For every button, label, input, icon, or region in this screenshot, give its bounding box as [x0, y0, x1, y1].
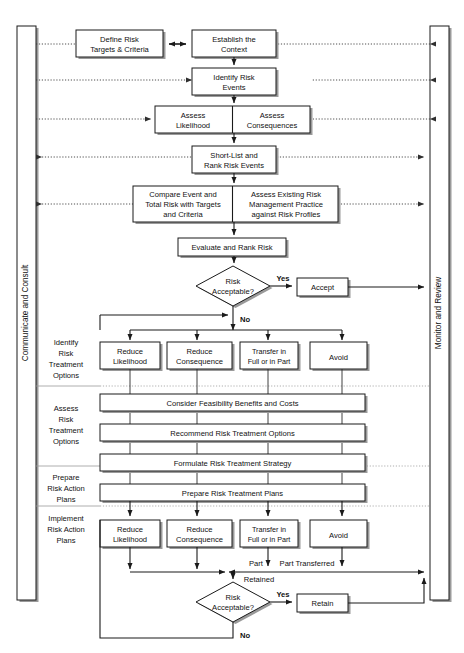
identify-options-line1: Identify [54, 338, 79, 347]
edge-decision2-yes: Yes [270, 590, 292, 602]
left-sidebar-communicate-and-consult: Communicate and Consult [17, 26, 39, 602]
stage-label-implement-risk-action-plans: Implement Risk Action Plans [47, 514, 85, 545]
node-recommend-options[interactable]: Recommend Risk Treatment Options [100, 424, 368, 443]
label-no-2: No [240, 631, 250, 640]
node-evaluate-rank-risk[interactable]: Evaluate and Rank Risk [178, 238, 289, 258]
transfer-2-line1: Transfer in [252, 525, 286, 534]
reduce-likelihood-1-line2: Likelihood [113, 357, 147, 366]
node-consider-feasibility[interactable]: Consider Feasibility Benefits and Costs [100, 394, 368, 413]
identify-options-line3: Treatment [49, 360, 84, 369]
identify-options-line2: Risk [59, 349, 74, 358]
prepare-plans-line2: Risk Action [47, 484, 85, 493]
transfer-2-line2: Full or in Part [248, 535, 291, 544]
avoid-2-label: Avoid [329, 531, 348, 540]
risk-acceptable-2-line1: Risk [226, 593, 241, 602]
edge-decision1-no: No [233, 306, 250, 330]
reduce-likelihood-2-line2: Likelihood [113, 535, 147, 544]
reduce-consequence-1-line2: Consequence [176, 357, 223, 366]
node-assess-likelihood-consequences[interactable]: Assess Likelihood Assess Consequences [155, 106, 313, 135]
treatment-options-fanout-1 [130, 330, 342, 340]
identify-risk-events-line2: Events [222, 83, 245, 92]
node-avoid-1[interactable]: Avoid [310, 342, 370, 371]
node-risk-acceptable-2[interactable]: Risk Acceptable? [196, 582, 273, 624]
transfer-1-line1: Transfer in [252, 347, 286, 356]
define-risk-targets-line1: Define Risk [100, 35, 139, 44]
edge-bottom-feedback-to-decision1 [100, 315, 228, 330]
treatment-options-fanout-2 [130, 501, 342, 516]
node-transfer-2[interactable]: Transfer in Full or in Part [240, 520, 301, 549]
identify-options-line4: Options [53, 371, 79, 380]
node-prepare-plans[interactable]: Prepare Risk Treatment Plans [100, 484, 368, 503]
retain-label: Retain [312, 599, 334, 608]
establish-context-line2: Context [221, 45, 248, 54]
node-reduce-likelihood-2[interactable]: Reduce Likelihood [100, 520, 163, 549]
merge-bus [130, 547, 424, 579]
node-reduce-consequence-1[interactable]: Reduce Consequence [167, 342, 235, 371]
assess-options-line1: Assess [54, 404, 79, 413]
assess-existing-line2: Management Practice [249, 200, 323, 209]
risk-acceptable-1-line1: Risk [226, 277, 241, 286]
consider-feasibility-label: Consider Feasibility Benefits and Costs [166, 399, 298, 408]
node-retain[interactable]: Retain [297, 594, 351, 614]
label-yes-2: Yes [276, 590, 289, 599]
implement-plans-line3: Plans [57, 536, 76, 545]
node-avoid-2[interactable]: Avoid [310, 520, 370, 549]
assess-options-line2: Risk [59, 415, 74, 424]
reduce-consequence-1-line1: Reduce [186, 347, 212, 356]
node-reduce-consequence-2[interactable]: Reduce Consequence [167, 520, 235, 549]
assess-consequences-line2: Consequences [247, 121, 298, 130]
stage-label-assess-risk-treatment-options: Assess Risk Treatment Options [49, 404, 84, 446]
assess-existing-line1: Assess Existing Risk [251, 190, 321, 199]
left-sidebar-label: Communicate and Consult [21, 264, 30, 361]
node-formulate-strategy[interactable]: Formulate Risk Treatment Strategy [100, 454, 368, 473]
define-risk-targets-line2: Targets & Criteria [90, 45, 149, 54]
implement-plans-line2: Risk Action [47, 525, 85, 534]
implement-plans-line1: Implement [48, 514, 84, 523]
prepare-plans-line1: Prepare [52, 473, 79, 482]
assess-likelihood-line1: Assess [181, 111, 206, 120]
short-list-line2: Rank Risk Events [204, 161, 264, 170]
reduce-consequence-2-line1: Reduce [186, 525, 212, 534]
node-transfer-1[interactable]: Transfer in Full or in Part [240, 342, 301, 371]
assess-likelihood-line2: Likelihood [176, 121, 210, 130]
assess-options-line3: Treatment [49, 426, 84, 435]
prepare-plans-line3: Plans [57, 495, 76, 504]
node-identify-risk-events[interactable]: Identify Risk Events [192, 68, 279, 97]
node-accept[interactable]: Accept [297, 278, 351, 298]
risk-acceptable-2-line2: Acceptable? [212, 603, 254, 612]
label-part-retained-a: Part [249, 559, 264, 568]
assess-consequences-line1: Assess [260, 111, 285, 120]
node-define-risk-targets[interactable]: Define Risk Targets & Criteria [76, 30, 166, 59]
recommend-options-label: Recommend Risk Treatment Options [170, 429, 295, 438]
node-short-list-rank[interactable]: Short-List and Rank Risk Events [192, 146, 279, 175]
label-yes-1: Yes [276, 274, 289, 283]
node-compare-assess-existing[interactable]: Compare Event and Total Risk with Target… [133, 186, 341, 224]
stage-label-identify-risk-treatment-options: Identify Risk Treatment Options [49, 338, 84, 380]
compare-event-line2: Total Risk with Targets [145, 200, 221, 209]
label-part-transferred: Part Transferred [280, 559, 335, 568]
stage-label-prepare-risk-action-plans: Prepare Risk Action Plans [47, 473, 85, 504]
accept-label: Accept [311, 283, 335, 292]
label-no-1: No [240, 315, 250, 324]
assess-options-line4: Options [53, 437, 79, 446]
risk-acceptable-1-line2: Acceptable? [212, 287, 254, 296]
prepare-plans-label: Prepare Risk Treatment Plans [182, 489, 283, 498]
node-risk-acceptable-1[interactable]: Risk Acceptable? [196, 266, 273, 308]
node-establish-context[interactable]: Establish the Context [192, 30, 279, 59]
formulate-strategy-label: Formulate Risk Treatment Strategy [174, 459, 292, 468]
assess-existing-line3: against Risk Profiles [252, 210, 321, 219]
node-reduce-likelihood-1[interactable]: Reduce Likelihood [100, 342, 163, 371]
short-list-line1: Short-List and [210, 151, 257, 160]
identify-risk-events-line1: Identify Risk [213, 73, 255, 82]
risk-process-flowchart: Communicate and Consult Monitor and Revi… [0, 0, 464, 653]
diagram-canvas: Communicate and Consult Monitor and Revi… [0, 0, 464, 653]
compare-event-line3: and Criteria [163, 210, 203, 219]
compare-event-line1: Compare Event and [149, 190, 217, 199]
edge-decision1-yes: Yes [270, 274, 292, 286]
right-sidebar-label: Monitor and Review [434, 277, 443, 349]
avoid-1-label: Avoid [329, 353, 348, 362]
reduce-likelihood-1-line1: Reduce [117, 347, 143, 356]
right-sidebar-monitor-and-review: Monitor and Review [430, 26, 452, 602]
label-part-retained-b: Retained [244, 575, 274, 584]
transfer-1-line2: Full or in Part [248, 357, 291, 366]
